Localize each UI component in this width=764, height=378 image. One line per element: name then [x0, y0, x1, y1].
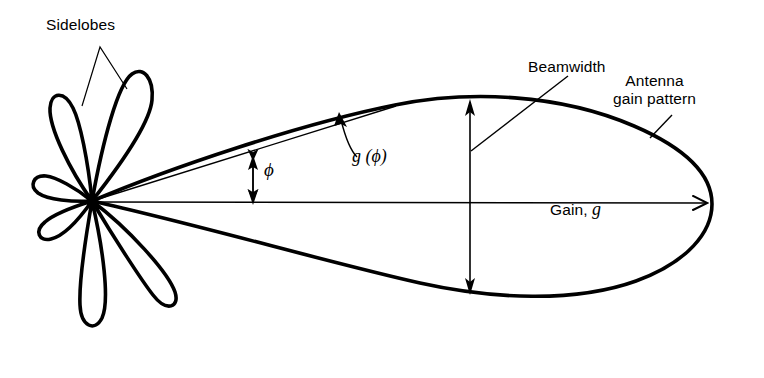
- sidelobes-leader-lines: [82, 47, 127, 106]
- main-lobe-outline: [92, 97, 712, 297]
- antenna-gain-pattern-label-line2: gain pattern: [613, 90, 696, 108]
- beamwidth-label: Beamwidth: [528, 58, 606, 76]
- pattern-drawing: [0, 0, 764, 378]
- sidelobe-left: [39, 201, 92, 240]
- antenna-gain-pattern-label: Antenna gain pattern: [613, 72, 696, 109]
- antenna-gain-pattern-figure: Sidelobes Beamwidth Antenna gain pattern…: [0, 0, 764, 378]
- sidelobes-label: Sidelobes: [46, 16, 115, 34]
- gain-label-prefix: Gain,: [550, 201, 592, 218]
- phi-angle-label: ϕ: [264, 159, 274, 181]
- beamwidth-leader-line: [471, 76, 568, 151]
- gain-axis-line: [92, 202, 706, 203]
- antenna-gain-pattern-label-line1: Antenna: [613, 72, 696, 90]
- antenna-gain-pattern-leader-line: [650, 115, 672, 138]
- gain-label-symbol: g: [592, 199, 601, 219]
- gain-label: Gain, g: [550, 199, 601, 220]
- phi-reference-ray: [92, 106, 396, 201]
- g-of-phi-label: g (ϕ): [352, 146, 387, 167]
- sidelobe-group: [33, 72, 176, 326]
